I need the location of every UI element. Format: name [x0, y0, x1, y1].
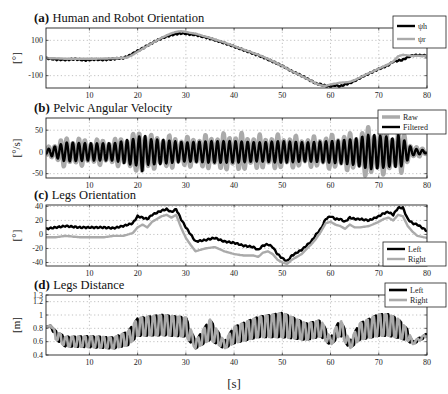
y-axis-label: [m] — [10, 317, 22, 333]
x-tick-label: 60 — [327, 358, 335, 367]
y-tick-label: 0 — [39, 148, 43, 157]
y-tick-label: 0.8 — [33, 324, 43, 333]
x-tick-label: 60 — [327, 181, 335, 190]
grid — [46, 205, 427, 266]
plot-area — [46, 127, 427, 175]
x-tick-label: 50 — [278, 358, 286, 367]
y-tick-label: 50 — [35, 126, 43, 135]
legend-label: Left — [410, 286, 424, 295]
x-tick-label: 70 — [375, 181, 383, 190]
y-tick-label: 0 — [39, 54, 43, 63]
x-tick-label: 40 — [230, 91, 238, 100]
x-tick-label: 10 — [85, 269, 93, 278]
figure: (a) Human and Robot Orientation102030405… — [0, 0, 448, 394]
panel-b-angular-velocity: (b) Pelvic Angular Velocity1020304050607… — [10, 100, 446, 190]
x-tick-label: 10 — [85, 91, 93, 100]
x-tick-label: 20 — [134, 269, 142, 278]
x-axis-label: [s] — [227, 376, 241, 391]
x-tick-label: 40 — [230, 269, 238, 278]
y-axis-label: [°/s] — [10, 138, 22, 157]
x-tick-label: 70 — [375, 358, 383, 367]
legend: LeftRight — [385, 283, 446, 307]
legend-label: Right — [410, 296, 429, 305]
x-tick-label: 80 — [423, 181, 431, 190]
legend-label: Left — [408, 245, 422, 254]
x-tick-label: 30 — [182, 269, 190, 278]
series-1-line — [46, 31, 427, 86]
y-tick-label: -50 — [32, 169, 43, 178]
legend-label: ψh — [418, 22, 427, 31]
legend-label: ψr — [418, 35, 426, 44]
y-tick-label: 40 — [35, 202, 43, 211]
y-tick-label: 0.6 — [33, 337, 43, 346]
x-tick-label: 60 — [327, 91, 335, 100]
legend-label: Filtered — [403, 123, 428, 132]
x-tick-label: 80 — [423, 269, 431, 278]
y-axis-label: [°] — [10, 52, 22, 64]
legend: LeftRight — [383, 242, 446, 266]
legend-label: Right — [408, 255, 427, 264]
y-tick-label: 0 — [39, 230, 43, 239]
x-tick-label: 50 — [278, 181, 286, 190]
legend: ψhψr — [393, 16, 446, 48]
x-tick-label: 40 — [230, 358, 238, 367]
x-tick-label: 60 — [327, 269, 335, 278]
y-tick-label: -20 — [32, 244, 43, 253]
x-tick-label: 70 — [375, 269, 383, 278]
y-tick-label: -40 — [32, 258, 43, 267]
series-1-line — [46, 215, 427, 264]
x-tick-label: 20 — [134, 91, 142, 100]
panel-title: (a) Human and Robot Orientation — [34, 10, 205, 25]
x-tick-label: 20 — [134, 358, 142, 367]
x-tick-label: 40 — [230, 181, 238, 190]
axes-frame — [46, 205, 427, 266]
x-tick-label: 50 — [278, 91, 286, 100]
x-tick-label: 30 — [182, 91, 190, 100]
y-tick-label: 1.2 — [33, 297, 43, 306]
panel-a-orientation: (a) Human and Robot Orientation102030405… — [10, 10, 446, 100]
y-tick-label: -100 — [28, 71, 43, 80]
series-0-line — [46, 207, 427, 261]
y-tick-label: 0.4 — [33, 351, 43, 360]
x-tick-label: 50 — [278, 269, 286, 278]
panel-title: (b) Pelvic Angular Velocity — [34, 100, 173, 115]
y-tick-label: 20 — [35, 216, 43, 225]
x-tick-label: 10 — [85, 358, 93, 367]
x-tick-label: 30 — [182, 358, 190, 367]
panel-title: (d) Legs Distance — [34, 277, 125, 292]
series-0-line — [46, 33, 427, 87]
y-tick-label: 1 — [39, 311, 43, 320]
panel-d-legs-distance: (d) Legs Distance10203040506070801.31.21… — [10, 277, 446, 367]
panel-c-legs-orientation: (c) Legs Orientation10203040506070804020… — [10, 187, 446, 278]
x-tick-label: 70 — [375, 91, 383, 100]
x-tick-label: 80 — [423, 358, 431, 367]
plot-area — [46, 31, 427, 87]
y-axis-label: [°] — [10, 230, 22, 242]
legend-label: Raw — [403, 113, 418, 122]
plot-area — [46, 207, 427, 264]
y-tick-label: 100 — [31, 36, 43, 45]
legend: RawFiltered — [378, 110, 446, 134]
plot-area — [46, 313, 427, 348]
x-tick-label: 80 — [423, 91, 431, 100]
x-tick-label: 30 — [182, 181, 190, 190]
panel-title: (c) Legs Orientation — [34, 187, 137, 202]
